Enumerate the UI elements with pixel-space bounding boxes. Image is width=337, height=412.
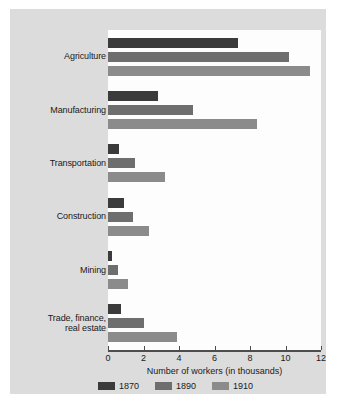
legend-label: 1890: [176, 381, 196, 391]
legend-swatch: [212, 382, 229, 390]
x-tick: [215, 346, 216, 350]
category-label-line: Mining: [22, 265, 106, 276]
category-label-line: Construction: [22, 211, 106, 222]
chart-card: AgricultureManufacturingTransportationCo…: [10, 9, 326, 394]
x-tick-label: 12: [316, 353, 326, 363]
bar-1890-construction: [108, 212, 133, 222]
bar-1910-agriculture: [108, 66, 310, 76]
category-axis: AgricultureManufacturingTransportationCo…: [22, 30, 106, 350]
category-label-line: real estate: [22, 323, 106, 334]
category-label: Agriculture: [22, 51, 106, 62]
bar-1910-trade-finance-real-estate: [108, 332, 177, 342]
legend-item-1910: 1910: [212, 381, 253, 391]
x-tick-label: 4: [176, 353, 181, 363]
bar-1910-manufacturing: [108, 119, 257, 129]
category-label: Manufacturing: [22, 105, 106, 116]
bar-1890-mining: [108, 265, 118, 275]
category-label-line: Transportation: [22, 158, 106, 169]
x-tick-label: 2: [141, 353, 146, 363]
bar-1910-transportation: [108, 172, 165, 182]
category-label-line: Manufacturing: [22, 105, 106, 116]
x-axis-title: Number of workers (in thousands): [108, 366, 321, 376]
bar-1870-construction: [108, 198, 124, 208]
chart-legend: 187018901910: [98, 381, 253, 391]
x-tick-label: 6: [212, 353, 217, 363]
legend-swatch: [98, 382, 115, 390]
x-tick: [108, 346, 109, 350]
x-tick: [321, 346, 322, 350]
category-label: Trade, finance,real estate: [22, 313, 106, 334]
category-label: Construction: [22, 211, 106, 222]
legend-item-1890: 1890: [155, 381, 196, 391]
bar-1870-manufacturing: [108, 91, 158, 101]
x-tick-label: 0: [105, 353, 110, 363]
category-label-line: Trade, finance,: [22, 313, 106, 324]
category-label-line: Agriculture: [22, 51, 106, 62]
bar-1870-agriculture: [108, 38, 238, 48]
x-tick: [286, 346, 287, 350]
bar-1870-transportation: [108, 144, 119, 154]
bar-1910-mining: [108, 279, 128, 289]
x-tick-label: 10: [280, 353, 290, 363]
x-tick: [250, 346, 251, 350]
x-tick: [144, 346, 145, 350]
bar-1870-trade-finance-real-estate: [108, 304, 121, 314]
category-label: Transportation: [22, 158, 106, 169]
bar-1890-transportation: [108, 158, 135, 168]
legend-swatch: [155, 382, 172, 390]
legend-label: 1870: [119, 381, 139, 391]
bar-1890-agriculture: [108, 52, 289, 62]
category-label: Mining: [22, 265, 106, 276]
x-tick: [179, 346, 180, 350]
bars-layer: [108, 30, 321, 350]
bar-1910-construction: [108, 226, 149, 236]
legend-item-1870: 1870: [98, 381, 139, 391]
x-tick-label: 8: [247, 353, 252, 363]
x-axis-line: [108, 350, 321, 352]
bar-1890-trade-finance-real-estate: [108, 318, 144, 328]
chart-figure: AgricultureManufacturingTransportationCo…: [0, 0, 337, 412]
legend-label: 1910: [233, 381, 253, 391]
bar-1870-mining: [108, 251, 112, 261]
bar-1890-manufacturing: [108, 105, 193, 115]
